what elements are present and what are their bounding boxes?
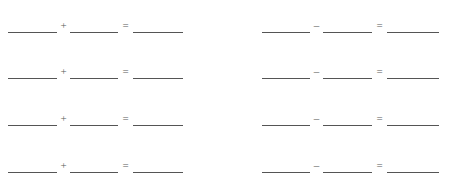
answer-blank-operand-b[interactable]: [70, 21, 118, 33]
answer-blank-operand-b[interactable]: [323, 67, 372, 79]
problem-row: – =: [262, 63, 439, 83]
answer-blank-operand-b[interactable]: [323, 21, 372, 33]
answer-blank-result[interactable]: [133, 161, 183, 173]
answer-blank-result[interactable]: [387, 21, 439, 33]
equals-sign: =: [374, 113, 385, 124]
answer-blank-operand-b[interactable]: [70, 161, 118, 173]
answer-blank-operand-a[interactable]: [8, 21, 57, 33]
minus-operator: –: [311, 66, 322, 77]
answer-blank-operand-a[interactable]: [8, 161, 57, 173]
answer-blank-operand-a[interactable]: [8, 114, 57, 126]
equals-sign: =: [374, 20, 385, 31]
minus-operator: –: [311, 160, 322, 171]
problem-row: + =: [8, 17, 183, 37]
problem-row: – =: [262, 110, 439, 130]
problem-row: + =: [8, 63, 183, 83]
equals-sign: =: [374, 160, 385, 171]
equals-sign: =: [120, 160, 131, 171]
answer-blank-operand-b[interactable]: [323, 161, 372, 173]
minus-operator: –: [311, 113, 322, 124]
minus-operator: –: [311, 20, 322, 31]
problem-row: + =: [8, 157, 183, 177]
answer-blank-operand-a[interactable]: [262, 67, 310, 79]
problem-row: – =: [262, 157, 439, 177]
plus-operator: +: [58, 160, 69, 171]
problem-row: + =: [8, 110, 183, 130]
plus-operator: +: [58, 66, 69, 77]
equals-sign: =: [374, 66, 385, 77]
answer-blank-operand-a[interactable]: [262, 21, 310, 33]
plus-operator: +: [58, 20, 69, 31]
math-worksheet: + = + = + = + = – = – =: [0, 0, 451, 191]
answer-blank-result[interactable]: [387, 161, 439, 173]
answer-blank-operand-b[interactable]: [70, 114, 118, 126]
answer-blank-result[interactable]: [133, 21, 183, 33]
answer-blank-operand-a[interactable]: [8, 67, 57, 79]
equals-sign: =: [120, 66, 131, 77]
answer-blank-result[interactable]: [133, 67, 183, 79]
answer-blank-operand-a[interactable]: [262, 161, 310, 173]
problem-row: – =: [262, 17, 439, 37]
equals-sign: =: [120, 113, 131, 124]
answer-blank-result[interactable]: [387, 67, 439, 79]
answer-blank-operand-b[interactable]: [323, 114, 372, 126]
plus-operator: +: [58, 113, 69, 124]
answer-blank-operand-a[interactable]: [262, 114, 310, 126]
equals-sign: =: [120, 20, 131, 31]
answer-blank-operand-b[interactable]: [70, 67, 118, 79]
answer-blank-result[interactable]: [133, 114, 183, 126]
answer-blank-result[interactable]: [387, 114, 439, 126]
